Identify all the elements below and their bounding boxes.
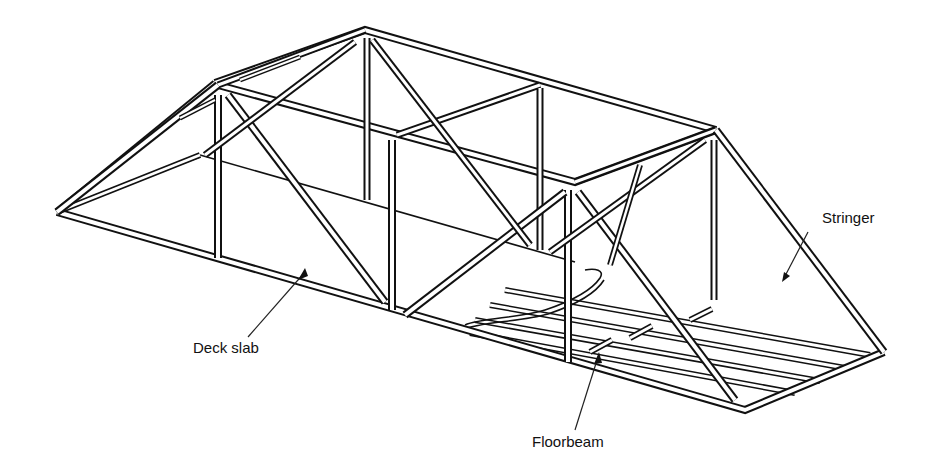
far-top-chord <box>215 30 716 130</box>
stringer-label: Stringer <box>822 209 875 226</box>
truss-bridge-diagram: Deck slab Stringer Floorbeam <box>0 0 935 476</box>
stringer-arrow-icon <box>782 272 790 282</box>
deck-slab-leader <box>248 272 305 337</box>
bridge-drawing <box>0 0 935 476</box>
deck-slab-label: Deck slab <box>193 339 259 356</box>
floorbeam-label: Floorbeam <box>532 433 604 450</box>
